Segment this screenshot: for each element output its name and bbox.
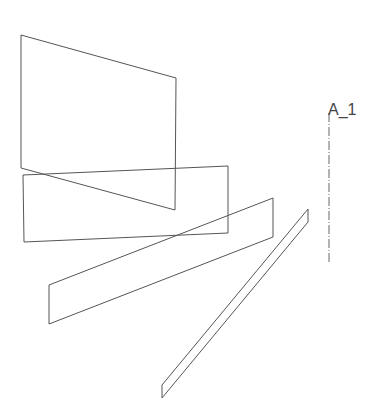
axis-label: A_1 xyxy=(328,101,356,119)
plane-1 xyxy=(21,35,176,210)
diagram-canvas xyxy=(0,0,388,412)
plane-4 xyxy=(162,209,308,398)
